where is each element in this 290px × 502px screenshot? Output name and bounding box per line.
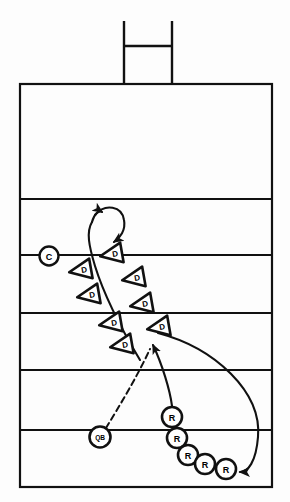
receiver-label: R [223, 465, 230, 475]
receiver-marker: R [216, 459, 236, 479]
receiver-label: R [169, 413, 176, 423]
receiver-label: R [202, 460, 209, 470]
center-label: C [46, 252, 53, 262]
quarterback-label: QB [95, 434, 105, 442]
quarterback-marker: QB [90, 427, 111, 448]
center-marker: C [40, 247, 59, 266]
receiver-marker: R [162, 407, 182, 427]
play-diagram-canvas: D D D D D D [0, 0, 290, 502]
play-diagram-page: D D D D D D [0, 0, 290, 502]
receiver-label: R [185, 451, 192, 461]
receiver-marker: R [195, 454, 215, 474]
receiver-label: R [174, 434, 181, 444]
